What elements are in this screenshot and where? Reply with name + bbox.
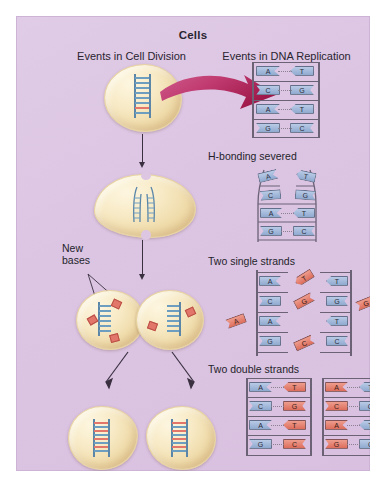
dna-ladder-intact — [134, 74, 151, 118]
figure-panel: Cells Events in Cell Division Events in … — [16, 16, 370, 471]
base-C: C — [256, 85, 280, 95]
base-A: A — [249, 382, 272, 392]
arrow-head-icon — [139, 162, 145, 168]
base-T: T — [283, 382, 306, 392]
base-A: A — [259, 316, 281, 326]
column-header-dna-replication: Events in DNA Replication — [204, 50, 369, 62]
base-A: A — [259, 276, 281, 286]
label-h-bonding-severed: H-bonding severed — [208, 150, 297, 162]
base-T: T — [326, 276, 348, 286]
base-G: G — [256, 123, 280, 133]
base-T: T — [326, 316, 348, 326]
base-A: A — [256, 66, 280, 76]
free-base-C: C — [293, 334, 315, 351]
base-G: G — [283, 401, 306, 411]
dna-stage-double-strand-1: A T C G A T G C — [244, 378, 314, 456]
dna-ladder-replicated — [171, 419, 188, 457]
cell-stage-joined-right — [136, 290, 202, 348]
base-C: C — [259, 296, 281, 306]
arrow-stage3-to-stage4 — [66, 348, 236, 408]
dna-replication-fork — [94, 174, 194, 236]
dna-stage-severed: A T C G A T G C — [250, 168, 328, 242]
dna-half-ladder — [166, 302, 180, 336]
free-base-G: G — [355, 295, 370, 312]
cell-stage-daughter-left — [68, 406, 136, 468]
cell-stage-joined-left — [76, 290, 142, 348]
dna-ladder-replicated — [93, 419, 110, 457]
page-title: Cells — [16, 29, 370, 41]
label-two-single-strands: Two single strands — [208, 255, 295, 267]
base-A: A — [249, 420, 272, 430]
base-G: G — [326, 296, 348, 306]
base-T: T — [283, 420, 306, 430]
arrow-stage1-to-stage2 — [142, 134, 143, 164]
base-C: C — [359, 439, 370, 449]
dna-stage-intact: A T C G A T G C — [250, 62, 322, 138]
base-C: C — [326, 336, 348, 346]
base-G: G — [249, 439, 272, 449]
base-T: T — [359, 420, 370, 430]
cell-stage-dividing — [94, 174, 194, 236]
base-T: T — [290, 66, 314, 76]
base-T: T — [290, 104, 314, 114]
base-C: C — [249, 401, 272, 411]
base-C: C — [290, 123, 314, 133]
base-G: G — [290, 85, 314, 95]
base-G: G — [359, 401, 370, 411]
free-base-A: A — [225, 313, 247, 329]
base-T: T — [359, 382, 370, 392]
base-G: G — [325, 439, 348, 449]
base-A: A — [325, 420, 348, 430]
base-A: A — [325, 382, 348, 392]
label-two-double-strands: Two double strands — [208, 363, 299, 375]
free-base-T: T — [293, 268, 315, 287]
cell-stage-daughter-right — [146, 406, 214, 468]
base-A: A — [256, 104, 280, 114]
base-C: C — [283, 439, 306, 449]
base-C: C — [325, 401, 348, 411]
free-base-G: G — [293, 292, 315, 310]
dna-stage-single-strands: A C A G T G T C T G C G A — [238, 270, 370, 356]
dna-stage-double-strand-2: A T C G A T G C — [320, 378, 370, 456]
base-G: G — [259, 336, 281, 346]
dna-half-ladder — [98, 302, 112, 336]
column-header-cell-division: Events in Cell Division — [44, 50, 219, 62]
